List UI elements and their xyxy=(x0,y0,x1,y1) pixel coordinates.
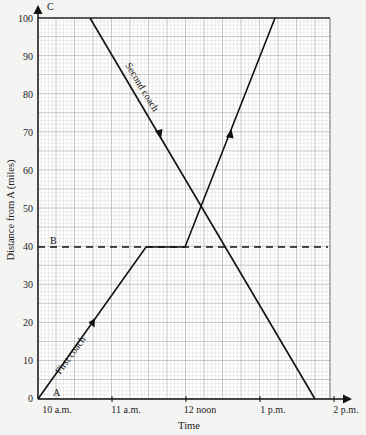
y-tick-label: 10 xyxy=(23,355,33,366)
point-b-label: B xyxy=(50,235,57,246)
y-axis-title: Distance from A (miles) xyxy=(5,159,17,261)
x-tick-label: 12 noon xyxy=(184,404,217,415)
y-tick-label: 60 xyxy=(23,165,33,176)
y-tick-label: 20 xyxy=(23,317,33,328)
point-c-label: C xyxy=(47,1,54,12)
y-tick-label: 80 xyxy=(23,89,33,100)
y-tick-label: 70 xyxy=(23,127,33,138)
y-tick-label: 0 xyxy=(28,393,33,404)
x-tick-label: 2 p.m. xyxy=(333,404,358,415)
x-axis-title: Time xyxy=(178,420,200,431)
y-tick-label: 100 xyxy=(18,13,33,24)
y-tick-label: 30 xyxy=(23,279,33,290)
point-a-label: A xyxy=(53,387,61,398)
y-tick-label: 40 xyxy=(23,241,33,252)
y-tick-labels: 0 10 20 30 40 50 60 70 80 90 100 xyxy=(18,13,33,404)
x-tick-label: 10 a.m. xyxy=(42,404,72,415)
y-tick-label: 90 xyxy=(23,51,33,62)
x-axis-arrow-icon xyxy=(343,395,352,404)
x-tick-label: 1 p.m. xyxy=(260,404,285,415)
x-tick-labels: 10 a.m. 11 a.m. 12 noon 1 p.m. 2 p.m. xyxy=(42,404,359,415)
x-tick-label: 11 a.m. xyxy=(111,404,140,415)
y-tick-label: 50 xyxy=(23,203,33,214)
y-axis-arrow-icon xyxy=(34,5,43,14)
distance-time-graph: 0 10 20 30 40 50 60 70 80 90 100 10 a.m.… xyxy=(0,0,366,435)
